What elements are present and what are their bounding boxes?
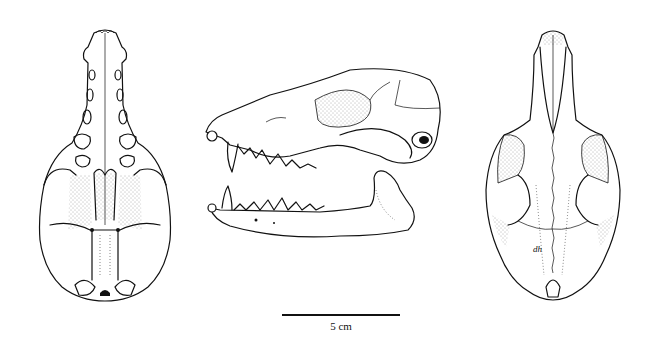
dorsal-skull-drawing (478, 25, 628, 305)
ventral-skull-drawing (30, 25, 180, 305)
lateral-skull-drawing (200, 60, 445, 270)
ventral-skull-view (30, 25, 180, 305)
lateral-skull-view (200, 60, 445, 270)
dorsal-skull-view (478, 25, 628, 305)
artist-initials: dh (533, 244, 542, 254)
scale-bar-label: 5 cm (282, 320, 400, 332)
scale-bar (282, 314, 400, 316)
